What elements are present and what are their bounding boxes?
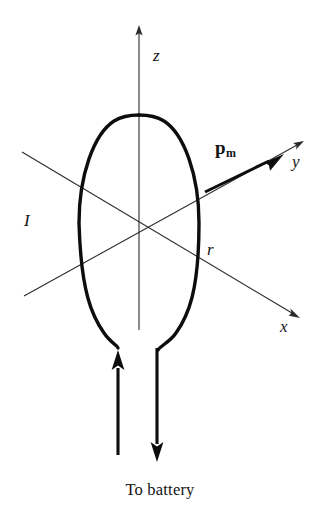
left-lead-arrowhead-up bbox=[112, 350, 125, 370]
left-lead-wire bbox=[112, 350, 125, 455]
x-axis bbox=[22, 152, 300, 318]
moment-vector-line bbox=[205, 161, 269, 192]
magnetic-moment-symbol: p bbox=[215, 137, 226, 158]
x-axis-arrowhead bbox=[289, 308, 300, 318]
y-axis-label: y bbox=[292, 153, 300, 170]
x-axis-label: x bbox=[280, 318, 288, 335]
magnetic-moment-label: pm bbox=[215, 138, 236, 159]
magnetic-moment-vector bbox=[205, 154, 284, 192]
right-lead-wire bbox=[151, 348, 164, 462]
y-axis-arrowhead bbox=[293, 141, 304, 149]
z-axis bbox=[135, 25, 142, 330]
radius-label: r bbox=[207, 241, 214, 258]
figure-canvas: z y x I r pm To battery bbox=[0, 0, 320, 521]
loop-left-arc bbox=[79, 115, 139, 348]
x-axis-line bbox=[22, 152, 292, 313]
magnetic-moment-subscript: m bbox=[226, 146, 236, 160]
right-lead-arrowhead-down bbox=[151, 442, 164, 462]
diagram-svg bbox=[0, 0, 320, 521]
loop-right-arc bbox=[139, 115, 199, 350]
z-axis-label: z bbox=[153, 47, 160, 64]
moment-vector-arrowhead bbox=[265, 154, 285, 171]
figure-caption: To battery bbox=[0, 482, 320, 499]
current-label: I bbox=[24, 212, 30, 229]
